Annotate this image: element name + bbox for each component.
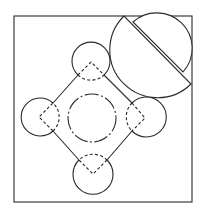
bottom-circle-outer-arc	[73, 160, 113, 194]
left-corner-dashed	[39, 103, 53, 131]
right-corner-dashed	[132, 103, 145, 131]
center-circle	[68, 94, 116, 142]
geometric-diagram	[0, 0, 204, 212]
top-circle-inner-arc	[78, 75, 104, 80]
left-circle-inner-arc	[53, 103, 59, 131]
top-circle-outer-arc	[72, 42, 110, 75]
diamond-outline	[53, 75, 132, 160]
left-circle-outer-arc	[21, 98, 53, 136]
diamond-edge-right-bottom	[107, 131, 132, 160]
right-circle-inner-arc	[126, 103, 132, 131]
bottom-corner-dashed	[79, 160, 107, 174]
bottom-circle-inner-arc	[79, 154, 107, 160]
right-circle-outer-arc	[132, 97, 166, 137]
top-corner-dashed	[78, 62, 104, 75]
diamond-edge-left-top	[53, 75, 78, 103]
